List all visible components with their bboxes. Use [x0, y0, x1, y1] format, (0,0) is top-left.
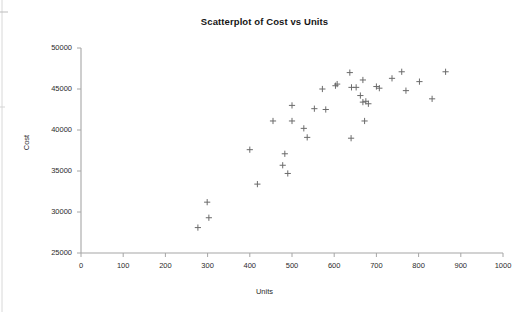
x-tick-label: 700	[356, 262, 396, 270]
data-point	[376, 85, 382, 91]
y-tick-label: 35000	[28, 167, 72, 175]
x-tick-label: 100	[103, 262, 143, 270]
x-tick-label: 300	[188, 262, 228, 270]
x-tick-label: 0	[61, 262, 101, 270]
data-point	[254, 181, 260, 187]
data-point	[443, 69, 449, 75]
x-tick-label: 400	[230, 262, 270, 270]
data-point	[360, 77, 366, 83]
data-point	[270, 118, 276, 124]
y-tick-label: 45000	[28, 85, 72, 93]
x-tick-label: 1000	[483, 262, 523, 270]
data-point	[347, 70, 353, 76]
x-tick-label: 900	[441, 262, 481, 270]
data-point	[323, 106, 329, 112]
data-point	[348, 135, 354, 141]
data-point	[304, 134, 310, 140]
y-tick-label: 50000	[28, 44, 72, 52]
data-point	[319, 86, 325, 92]
data-point	[360, 99, 366, 105]
data-point	[247, 147, 253, 153]
x-tick-label: 800	[399, 262, 439, 270]
data-point	[429, 96, 435, 102]
data-point	[289, 102, 295, 108]
data-point	[357, 92, 363, 98]
data-point-group	[195, 69, 449, 231]
data-point	[361, 118, 367, 124]
data-point	[301, 125, 307, 131]
data-point	[282, 151, 288, 157]
data-point	[389, 75, 395, 81]
y-tick-label: 30000	[28, 208, 72, 216]
data-point	[285, 170, 291, 176]
data-point	[403, 88, 409, 94]
y-tick-label: 25000	[28, 249, 72, 257]
data-point	[204, 199, 210, 205]
data-point	[206, 215, 212, 221]
x-tick-label: 500	[272, 262, 312, 270]
data-point	[416, 79, 422, 85]
data-point	[289, 118, 295, 124]
data-point	[311, 106, 317, 112]
x-tick-label: 200	[145, 262, 185, 270]
x-tick-label: 600	[314, 262, 354, 270]
data-point	[399, 69, 405, 75]
data-point	[353, 84, 359, 90]
data-point	[280, 162, 286, 168]
data-point	[373, 83, 379, 89]
y-tick-label: 40000	[28, 126, 72, 134]
scatterplot-chart: Scatterplot of Cost vs Units Cost Units …	[0, 0, 529, 312]
data-point	[195, 224, 201, 230]
